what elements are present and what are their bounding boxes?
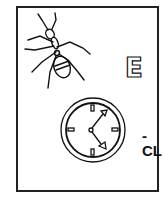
flashcard: E -CL bbox=[16, 6, 159, 192]
suffix-label: -CL bbox=[142, 128, 162, 158]
clock-icon bbox=[58, 95, 128, 165]
ant-icon bbox=[20, 12, 110, 92]
letter-label: E bbox=[125, 55, 143, 81]
